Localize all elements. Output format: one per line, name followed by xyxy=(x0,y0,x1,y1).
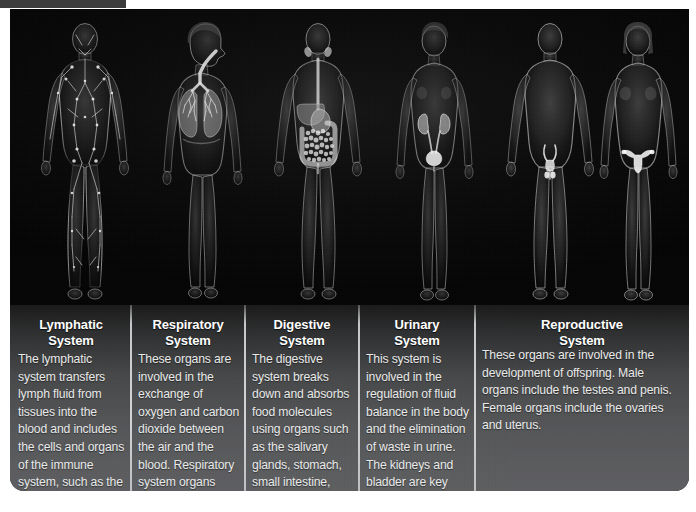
system-title-urinary: Urinary System xyxy=(362,317,472,348)
urinary-system-figure xyxy=(382,21,486,303)
system-description-respiratory: These organs are involved in the exchang… xyxy=(138,351,241,491)
system-title-digestive: Digestive System xyxy=(248,317,356,348)
lymphatic-system-figure xyxy=(32,21,138,303)
system-description-lymphatic: The lymphatic system transfers lymph flu… xyxy=(18,351,125,491)
system-description-urinary: This system is involved in the regulatio… xyxy=(366,351,470,491)
system-title-lymphatic: Lymphatic System xyxy=(14,317,128,348)
system-description-reproductive: These organs are involved in the develop… xyxy=(482,347,678,435)
column-divider-1 xyxy=(130,305,132,491)
system-title-reproductive: Reproductive System xyxy=(478,317,686,348)
column-divider-2 xyxy=(244,305,246,491)
respiratory-system-figure xyxy=(150,21,254,303)
column-divider-4 xyxy=(474,305,476,491)
system-description-digestive: The digestive system breaks down and abs… xyxy=(252,351,355,491)
digestive-system-figure xyxy=(266,21,370,303)
anatomy-image-area xyxy=(10,9,689,305)
body-systems-panel: Lymphatic System Respiratory System Dige… xyxy=(10,9,689,491)
top-gray-bar xyxy=(0,0,126,8)
reproductive-system-female-figure xyxy=(586,21,689,303)
column-divider-3 xyxy=(358,305,360,491)
system-title-respiratory: Respiratory System xyxy=(134,317,242,348)
